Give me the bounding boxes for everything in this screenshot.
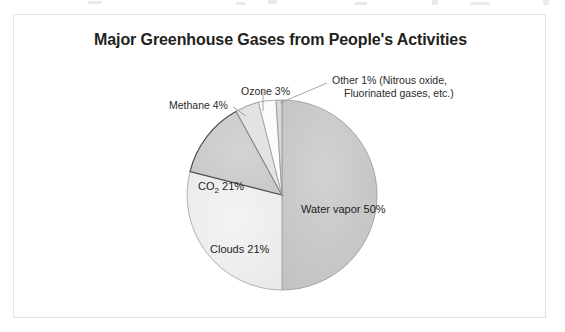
pie-slices-svg bbox=[14, 15, 547, 319]
pie-label-co2-value: 21% bbox=[219, 180, 244, 192]
pie-label-water-vapor: Water vapor 50% bbox=[301, 203, 386, 216]
cropped-text-artifact bbox=[0, 0, 565, 12]
figure-border: Major Greenhouse Gases from People's Act… bbox=[13, 14, 546, 318]
pie-label-co2-subscript: 2 bbox=[215, 186, 219, 195]
pie-label-ozone: Ozone 3% bbox=[241, 85, 290, 98]
pie-label-other-line1: Other 1% (Nitrous oxide, bbox=[332, 74, 447, 86]
pie-chart: Methane 4% Ozone 3% Other 1% (Nitrous ox… bbox=[14, 15, 547, 319]
pie-label-other-line2: Fluorinated gases, etc.) bbox=[332, 87, 507, 100]
pie-label-other: Other 1% (Nitrous oxide, Fluorinated gas… bbox=[332, 74, 507, 99]
pie-label-co2-name: CO bbox=[198, 180, 215, 192]
figure-page: Major Greenhouse Gases from People's Act… bbox=[0, 0, 565, 332]
pie-label-co2: CO2 21% bbox=[198, 180, 244, 195]
pie-label-clouds: Clouds 21% bbox=[210, 243, 269, 256]
pie-label-methane: Methane 4% bbox=[169, 99, 228, 112]
pie-slice-water-vapor bbox=[282, 100, 377, 290]
